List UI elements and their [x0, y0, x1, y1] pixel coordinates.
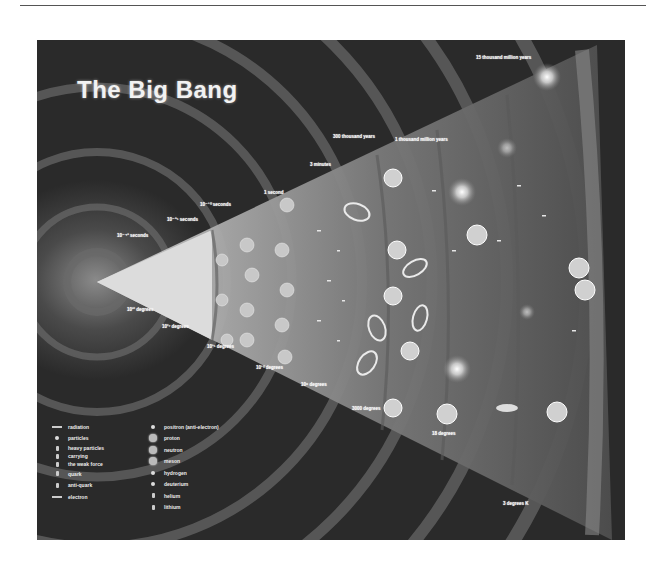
positron-icon: [146, 425, 160, 429]
deuterium-icon: [146, 482, 160, 486]
big-bang-poster: The Big Bang 10⁻⁴³ seconds 10⁻³⁵ seconds…: [37, 40, 625, 540]
time-label: 10⁻¹⁰ seconds: [200, 202, 231, 208]
lithium-icon: [146, 505, 160, 510]
quark-icon: [50, 471, 64, 476]
time-label: 1 second: [264, 190, 284, 196]
legend-item: positron (anti-electron): [146, 421, 219, 433]
legend-item: meson: [146, 456, 219, 468]
temperature-label: 10²⁷ degrees: [162, 324, 189, 330]
legend-item: the weak force: [50, 460, 104, 468]
time-label: 10⁻³⁵ seconds: [167, 217, 198, 223]
time-label: 15 thousand million years: [476, 55, 531, 61]
legend-item: quark: [50, 468, 104, 480]
legend-item: anti-quark: [50, 480, 104, 492]
legend-item: deuterium: [146, 479, 219, 491]
time-label: 300 thousand years: [333, 134, 375, 140]
hydrogen-icon: [146, 471, 160, 475]
time-label: 3 minutes: [310, 162, 331, 168]
temperature-label: 18 degrees: [432, 431, 456, 437]
legend: radiation particles heavy particles carr…: [50, 421, 240, 521]
temperature-label: 3 degrees K: [503, 501, 529, 507]
heavy-particle-icon: [50, 446, 64, 451]
legend-item: neutron: [146, 444, 219, 456]
heavy-particle-icon: [50, 462, 64, 467]
legend-item: heavy particles: [50, 444, 104, 452]
top-divider-line: [20, 5, 646, 6]
temperature-label: 10⁹ degrees: [301, 382, 327, 388]
legend-item: particles: [50, 433, 104, 445]
legend-item: hydrogen: [146, 467, 219, 479]
heavy-particle-icon: [50, 454, 64, 459]
time-label: 1 thousand million years: [395, 137, 448, 143]
legend-column-left: radiation particles heavy particles carr…: [50, 421, 104, 503]
diagram-title: The Big Bang: [77, 76, 238, 104]
legend-item: carrying: [50, 452, 104, 460]
particle-icon: [50, 436, 64, 440]
legend-item: proton: [146, 433, 219, 445]
neutron-icon: [146, 446, 160, 454]
time-label: 10⁻⁴³ seconds: [117, 233, 148, 239]
helium-icon: [146, 493, 160, 498]
temperature-label: 10³² degrees: [127, 307, 154, 313]
proton-icon: [146, 434, 160, 442]
legend-column-right: positron (anti-electron) proton neutron …: [146, 421, 219, 513]
legend-item: helium: [146, 490, 219, 502]
meson-icon: [146, 457, 160, 465]
legend-item: electron: [50, 491, 104, 503]
temperature-label: 10¹⁰ degrees: [256, 365, 283, 371]
legend-item: lithium: [146, 502, 219, 514]
radiation-icon: [50, 426, 64, 428]
temperature-label: 10¹⁵ degrees: [207, 344, 234, 350]
anti-quark-icon: [50, 483, 64, 488]
electron-icon: [50, 496, 64, 498]
legend-item: radiation: [50, 421, 104, 433]
temperature-label: 3000 degrees: [352, 406, 381, 412]
